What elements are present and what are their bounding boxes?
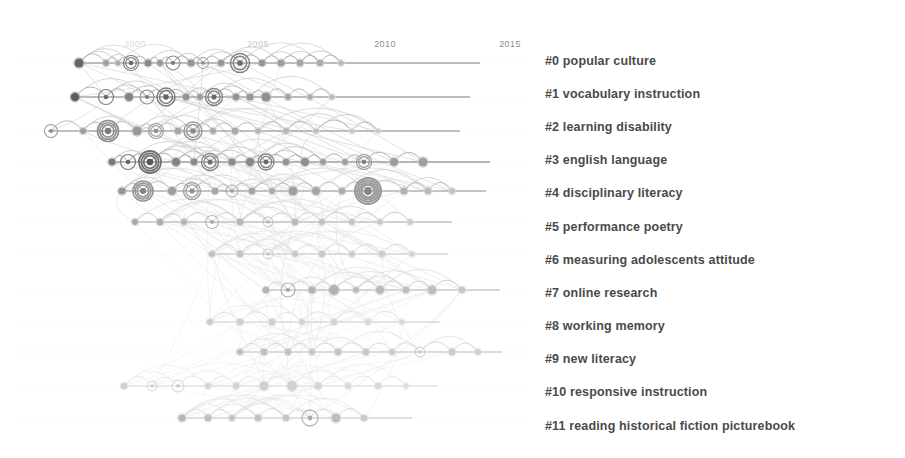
graph-node[interactable] [254,414,262,422]
graph-node[interactable] [211,187,219,195]
graph-node[interactable] [284,93,292,101]
graph-node[interactable] [202,154,219,171]
graph-node[interactable] [424,187,432,195]
graph-node[interactable] [262,286,270,294]
graph-node[interactable] [184,122,202,140]
graph-node[interactable] [178,414,187,423]
graph-node[interactable] [258,59,266,67]
legend-item-cluster-8[interactable]: #8 working memory [545,310,897,343]
graph-node[interactable] [108,158,116,166]
graph-node[interactable] [254,127,261,134]
graph-node[interactable] [156,218,164,226]
graph-node[interactable] [348,218,356,226]
graph-node[interactable] [400,187,409,196]
graph-node[interactable] [182,93,190,101]
legend-item-cluster-6[interactable]: #6 measuring adolescents attitude [545,243,897,276]
graph-node[interactable] [196,93,204,101]
graph-node[interactable] [236,250,244,258]
graph-node[interactable] [79,127,87,135]
graph-node[interactable] [308,348,316,356]
graph-node[interactable] [131,218,139,226]
graph-node[interactable] [236,318,244,326]
graph-node[interactable] [308,286,317,295]
graph-node[interactable] [115,60,122,67]
graph-node[interactable] [204,414,212,422]
graph-node[interactable] [338,187,346,195]
graph-node[interactable] [300,157,310,167]
graph-node[interactable] [319,158,327,166]
legend-item-cluster-7[interactable]: #7 online research [545,276,897,309]
graph-node[interactable] [124,56,139,71]
graph-node[interactable] [306,93,313,100]
graph-node[interactable] [258,154,274,170]
legend-item-cluster-2[interactable]: #2 learning disability [545,110,897,143]
graph-node[interactable] [232,382,240,390]
legend-item-cluster-3[interactable]: #3 english language [545,144,897,177]
graph-node[interactable] [144,59,153,68]
cluster-legend[interactable]: #0 popular culture#1 vocabulary instruct… [545,44,897,442]
graph-node[interactable] [184,183,201,200]
network-graph-svg[interactable] [0,0,540,458]
graph-node[interactable] [208,250,216,258]
graph-node[interactable] [174,127,182,135]
graph-node[interactable] [376,218,383,225]
graph-node[interactable] [357,155,372,170]
graph-node[interactable] [217,59,225,67]
graph-node[interactable] [329,94,336,101]
graph-node[interactable] [388,348,396,356]
legend-item-cluster-9[interactable]: #9 new literacy [545,343,897,376]
legend-item-cluster-10[interactable]: #10 responsive instruction [545,376,897,409]
graph-node[interactable] [277,59,286,68]
graph-node[interactable] [171,157,181,167]
graph-node[interactable] [360,414,368,422]
graph-node[interactable] [474,348,482,356]
graph-node[interactable] [149,124,164,139]
graph-node[interactable] [120,382,128,390]
graph-node[interactable] [282,127,290,135]
graph-node[interactable] [291,250,299,258]
graph-node[interactable] [209,127,217,135]
graph-node[interactable] [190,158,198,166]
graph-node[interactable] [375,285,385,295]
graph-node[interactable] [102,59,110,67]
graph-node[interactable] [167,186,177,196]
graph-node[interactable] [268,318,276,326]
graph-node[interactable] [311,186,321,196]
graph-node[interactable] [204,382,212,390]
graph-node[interactable] [268,187,276,195]
cluster-timeline-graph[interactable]: 2000200520102015 [0,0,540,458]
graph-node[interactable] [408,250,415,257]
graph-node[interactable] [260,348,268,356]
graph-node[interactable] [132,126,143,137]
graph-node[interactable] [206,89,223,106]
graph-node[interactable] [418,157,429,168]
graph-node[interactable] [402,382,409,389]
graph-node[interactable] [318,250,326,258]
graph-node[interactable] [157,88,175,106]
graph-node[interactable] [282,158,290,166]
graph-node[interactable] [286,380,298,392]
graph-node[interactable] [231,54,250,73]
graph-node[interactable] [375,128,381,134]
graph-node[interactable] [398,318,405,325]
graph-node[interactable] [156,59,164,67]
graph-node[interactable] [124,92,134,102]
legend-item-cluster-0[interactable]: #0 popular culture [545,44,897,77]
graph-node[interactable] [362,348,370,356]
graph-node[interactable] [328,284,340,296]
graph-node[interactable] [331,413,342,424]
graph-node[interactable] [349,128,356,135]
graph-node[interactable] [291,218,299,226]
graph-node[interactable] [70,92,80,102]
graph-node[interactable] [427,285,438,296]
graph-node[interactable] [248,187,256,195]
graph-node[interactable] [389,157,399,167]
graph-node[interactable] [118,187,127,196]
graph-node[interactable] [246,93,255,102]
graph-node[interactable] [378,250,386,258]
graph-node[interactable] [296,59,304,67]
graph-node[interactable] [74,58,85,69]
legend-item-cluster-5[interactable]: #5 performance poetry [545,210,897,243]
graph-node[interactable] [402,286,410,294]
graph-node[interactable] [334,348,342,356]
